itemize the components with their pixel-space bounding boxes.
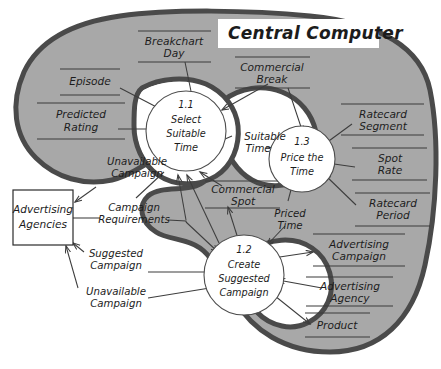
title-plate: Central Computer	[218, 19, 404, 48]
data-store-label-line2: Day	[164, 47, 186, 59]
data-store-label-line2: Period	[376, 209, 410, 221]
process-label-line3: Time	[174, 142, 198, 153]
data-store-label-line1: Advertising	[328, 238, 389, 250]
flow-advertising-agency-to-1-2	[278, 280, 322, 288]
page-title: Central Computer	[228, 23, 404, 43]
flow-label-line2: Campaign	[90, 260, 142, 271]
process-number: 1.2	[236, 244, 251, 255]
data-store-label-line1: Breakchart	[145, 35, 204, 47]
data-store-label-line2: Spot	[231, 195, 256, 207]
flow-label-unavailable-campaign-2: Unavailable Campaign	[86, 286, 146, 309]
flow-label-line1: Campaign	[108, 202, 160, 213]
flow-label-priced-time: Priced Time	[274, 208, 306, 231]
entity-label-line1: Advertising	[12, 203, 73, 215]
process-label-line1: Create	[228, 259, 260, 270]
data-store-label-line1: Product	[317, 319, 358, 331]
flow-label-line2: Time	[277, 220, 302, 231]
data-store-label-line2: Agency	[329, 292, 370, 304]
flow-label-line2: Campaign	[90, 298, 142, 309]
external-entity-advertising-agencies[interactable]: Advertising Agencies	[12, 190, 73, 245]
data-store-label-line1: Episode	[69, 75, 111, 87]
flow-label-line2: Requirements	[98, 214, 170, 225]
flow-label-line1: Unavailable	[86, 286, 146, 297]
process-label-line1: Price the	[281, 152, 324, 163]
process-number: 1.1	[178, 99, 193, 110]
process-label-line2: Suitable	[166, 128, 206, 139]
entity-label-line2: Agencies	[18, 218, 67, 230]
process-label-line1: Select	[171, 114, 202, 125]
process-number: 1.3	[294, 136, 309, 147]
data-store-label-line1: Predicted	[56, 108, 106, 120]
data-store-label-line1: Commercial	[240, 61, 304, 73]
flow-label-line2: Campaign	[111, 168, 163, 179]
flow-unavailable-campaign-2-to-entity	[66, 246, 78, 288]
data-store-label-line1: Advertising	[319, 280, 380, 292]
data-store-label-line1: Ratecard	[359, 108, 407, 120]
data-store-label-line2: Rating	[64, 121, 99, 133]
data-store-label-line1: Ratecard	[369, 197, 417, 209]
diagram-canvas: Central Computer	[0, 0, 441, 369]
data-store-label-line2: Rate	[378, 164, 403, 176]
flow-suggested-campaign-to-entity	[73, 243, 84, 252]
flow-label-line2: Time	[245, 143, 270, 154]
data-store-label-line1: Spot	[378, 152, 403, 164]
process-label-line3: Campaign	[219, 287, 268, 298]
flow-unavailable-campaign-to-entity	[75, 187, 96, 202]
process-label-line2: Suggested	[218, 273, 270, 284]
flow-label-line1: Unavailable	[107, 156, 167, 167]
data-store-label-line2: Campaign	[332, 250, 386, 262]
flow-label-unavailable-campaign-1: Unavailable Campaign	[107, 156, 167, 179]
flow-label-line1: Suitable	[244, 131, 286, 142]
process-label-line2: Time	[290, 166, 314, 177]
flow-label-campaign-requirements: Campaign Requirements	[98, 202, 170, 225]
flow-label-suggested-campaign: Suggested Campaign	[89, 248, 144, 271]
data-store-label-line2: Break	[257, 73, 289, 85]
data-flow-diagram: Central Computer	[0, 0, 441, 369]
flow-label-line1: Priced	[274, 208, 306, 219]
data-store-label-line1: Commercial	[211, 183, 275, 195]
flow-1-2-unavailable-stub	[148, 287, 216, 298]
data-store-label-line2: Segment	[359, 120, 408, 132]
process-1-2[interactable]: 1.2 Create Suggested Campaign	[204, 235, 284, 315]
flow-label-line1: Suggested	[89, 248, 144, 259]
